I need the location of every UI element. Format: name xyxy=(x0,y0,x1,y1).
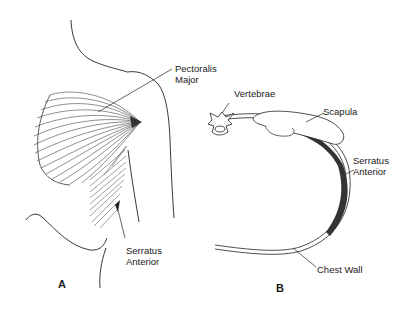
pectoralis-major-label: Pectoralis Major xyxy=(175,64,217,85)
serratus-anterior-label-b: Serratus Anterior xyxy=(353,156,389,177)
pectoralis-label-line2: Major xyxy=(175,74,199,85)
serratus-leader-line-a xyxy=(118,210,125,238)
vertebra-bone xyxy=(208,112,234,135)
vertebrae-leader-line xyxy=(222,103,229,113)
pectoralis-leader-line xyxy=(98,69,172,112)
scapula-label: Scapula xyxy=(323,107,357,118)
pectoralis-label-line1: Pectoralis xyxy=(175,63,217,74)
panel-b-label: B xyxy=(276,282,284,294)
vertebrae-label: Vertebrae xyxy=(234,89,275,100)
panel-a-label: A xyxy=(58,278,66,290)
torso-side-outline xyxy=(100,248,106,288)
serratus-b-label-line2: Anterior xyxy=(353,166,386,177)
serratus-a-label-line2: Anterior xyxy=(126,256,159,267)
chest-wall-label: Chest Wall xyxy=(317,265,363,276)
serratus-anterior-label-a: Serratus Anterior xyxy=(126,246,162,267)
pectoralis-major-muscle xyxy=(34,92,140,185)
serratus-a-label-line1: Serratus xyxy=(126,245,162,256)
neck-shoulder-outline xyxy=(71,20,174,218)
chest-wall-leader-line xyxy=(293,248,316,267)
armpit-outline xyxy=(26,214,107,250)
arm-inner-outline xyxy=(128,150,139,222)
serratus-b-label-line1: Serratus xyxy=(353,155,389,166)
